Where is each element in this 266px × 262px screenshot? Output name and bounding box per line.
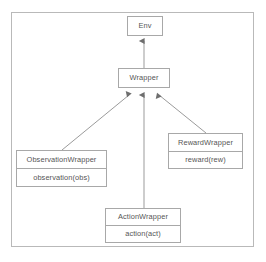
- class-name-action-wrapper: ActionWrapper: [106, 209, 180, 225]
- class-member-reward: reward(rew): [169, 151, 242, 169]
- class-node-env[interactable]: Env: [127, 16, 163, 36]
- class-node-action-wrapper[interactable]: ActionWrapper action(act): [105, 208, 181, 243]
- edge-observation-to-wrapper: [62, 95, 129, 150]
- diagram-canvas: Env Wrapper ObservationWrapper observati…: [0, 0, 266, 262]
- class-node-reward-wrapper[interactable]: RewardWrapper reward(rew): [168, 133, 243, 169]
- class-name-observation-wrapper: ObservationWrapper: [17, 151, 106, 168]
- class-name-env: Env: [128, 17, 162, 35]
- class-node-observation-wrapper[interactable]: ObservationWrapper observation(obs): [16, 150, 107, 187]
- class-node-wrapper[interactable]: Wrapper: [118, 68, 170, 88]
- class-member-observation: observation(obs): [17, 168, 106, 186]
- edge-reward-to-wrapper: [159, 95, 206, 133]
- class-name-wrapper: Wrapper: [119, 69, 169, 87]
- class-name-reward-wrapper: RewardWrapper: [169, 134, 242, 151]
- class-member-action: action(act): [106, 225, 180, 242]
